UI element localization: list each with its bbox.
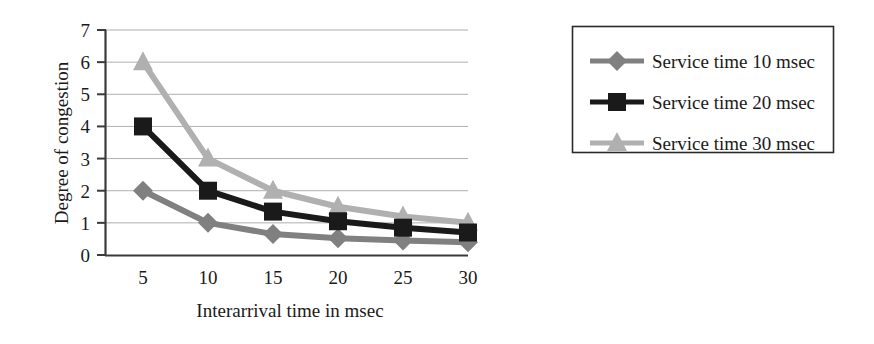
legend-entry: Service time 30 msec	[590, 132, 815, 154]
data-point-diamond	[263, 224, 283, 244]
series-triangle	[133, 51, 478, 231]
series-line	[143, 62, 468, 223]
y-tick-label: 3	[81, 149, 91, 170]
chart-figure: 01234567 51015202530 Degree of congestio…	[0, 0, 874, 344]
y-axis-title: Degree of congestion	[51, 61, 72, 224]
legend-entry: Service time 10 msec	[590, 51, 815, 72]
x-tick-label: 10	[199, 267, 218, 288]
legend-entry: Service time 20 msec	[590, 92, 815, 113]
data-point-square	[459, 224, 477, 242]
legend-label: Service time 20 msec	[652, 92, 815, 113]
legend: Service time 10 msecService time 20 msec…	[573, 27, 834, 155]
y-tick-label: 5	[81, 84, 91, 105]
data-point-square	[394, 219, 412, 237]
data-point-square	[134, 117, 152, 135]
y-tick-label: 2	[81, 181, 91, 202]
y-axis-tick-labels: 01234567	[81, 20, 91, 266]
x-tick-label: 5	[138, 267, 148, 288]
line-chart: 01234567 51015202530 Degree of congestio…	[0, 0, 874, 344]
y-tick-label: 4	[81, 116, 91, 137]
legend-entries: Service time 10 msecService time 20 msec…	[590, 51, 815, 154]
x-tick-label: 15	[264, 267, 283, 288]
data-point-diamond	[133, 181, 153, 201]
y-tick-label: 1	[81, 213, 91, 234]
y-tick-label: 0	[81, 245, 91, 266]
legend-label: Service time 30 msec	[652, 133, 815, 154]
x-tick-label: 25	[394, 267, 413, 288]
x-tick-label: 30	[459, 267, 478, 288]
data-point-triangle	[133, 51, 153, 70]
data-point-diamond	[607, 51, 627, 71]
data-point-square	[608, 93, 626, 111]
data-series-layer	[133, 51, 478, 252]
data-point-square	[329, 212, 347, 230]
x-axis-tick-labels: 51015202530	[138, 267, 477, 288]
y-axis	[97, 30, 106, 256]
legend-label: Service time 10 msec	[652, 51, 815, 72]
data-point-diamond	[198, 213, 218, 233]
x-tick-label: 20	[329, 267, 348, 288]
data-point-square	[199, 182, 217, 200]
x-axis-title: Interarrival time in msec	[196, 300, 383, 321]
data-point-square	[264, 203, 282, 221]
data-point-diamond	[328, 228, 348, 248]
y-tick-label: 7	[81, 20, 91, 41]
y-tick-label: 6	[81, 52, 91, 73]
